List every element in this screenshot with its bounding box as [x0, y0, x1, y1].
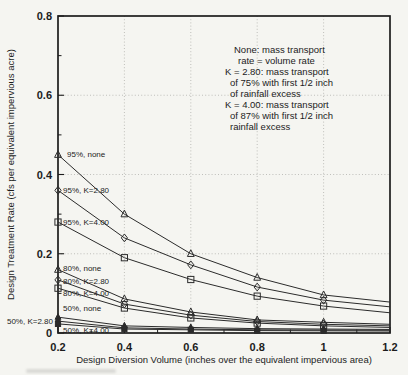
note-line: rate = volume rate	[238, 55, 315, 66]
series-label: 50%, none	[63, 304, 102, 313]
data-point-marker	[188, 327, 193, 332]
note-line: None: mass transport	[234, 44, 325, 55]
note-line: of rainfall excess	[230, 88, 301, 99]
data-point-marker	[122, 326, 127, 331]
series-line	[58, 222, 390, 313]
x-tick-label: 0.8	[250, 341, 265, 353]
x-tick-label: 0.6	[183, 341, 198, 353]
series-label: 80%, none	[63, 264, 102, 273]
note-line: K = 4.00: mass transport	[225, 99, 329, 110]
scanned-chart-figure: 00.20.40.60.80.20.40.60.811.2Design Dive…	[0, 0, 408, 375]
data-point-marker	[321, 328, 326, 333]
note-line: K = 2.80: mass transport	[225, 66, 329, 77]
x-axis-title: Design Diversion Volume (inches over the…	[76, 354, 372, 365]
series-label: 95%, none	[67, 150, 106, 159]
y-tick-label: 0.4	[37, 169, 53, 181]
y-tick-label: 0.2	[37, 248, 52, 260]
y-tick-label: 0.8	[37, 10, 52, 22]
series-label: 80%, K=2.80	[63, 277, 110, 286]
data-point-marker	[55, 321, 60, 326]
note-line: of 75% with first 1/2 inch	[230, 77, 333, 88]
series-label: 95%, K=4.00	[63, 218, 110, 227]
x-tick-label: 0.2	[50, 341, 65, 353]
x-tick-label: 1	[321, 341, 327, 353]
y-tick-label: 0	[46, 327, 52, 339]
series-label: 50%, K=2.80	[7, 317, 54, 326]
series-label: 95%, K=2.80	[63, 186, 110, 195]
series-label: 80%, K=4.00	[63, 289, 110, 298]
chart: 00.20.40.60.80.20.40.60.811.2Design Dive…	[0, 0, 408, 375]
note-line: rainfall excess	[230, 121, 290, 132]
x-tick-label: 1.2	[382, 341, 397, 353]
note-line: of 87% with first 1/2 inch	[230, 110, 333, 121]
y-axis-title: Design Treatment Rate (cfs per equivalen…	[5, 49, 16, 300]
series-label: 50%, K=4.00	[63, 326, 110, 335]
y-tick-label: 0.6	[37, 89, 52, 101]
x-tick-label: 0.4	[117, 341, 133, 353]
scan-smudge	[26, 369, 116, 373]
data-point-marker	[255, 328, 260, 333]
